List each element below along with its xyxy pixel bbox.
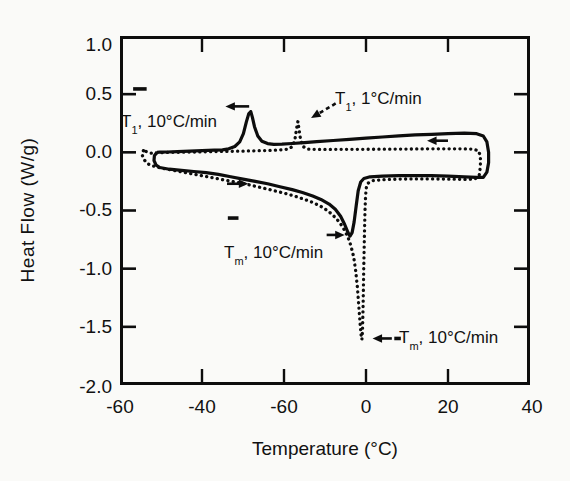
- x-tick-label: -60: [88, 396, 152, 418]
- annotation-text: , 1°C/min: [352, 89, 422, 108]
- y-tick-label: -0.5: [42, 199, 112, 221]
- y-tick-label: 0.5: [42, 83, 112, 105]
- x-tick-label: 0: [334, 396, 398, 418]
- annotation-subscript: m: [234, 255, 243, 267]
- annotation-text: , 10°C/min: [138, 112, 218, 131]
- annotation-text: T: [121, 112, 131, 131]
- dsc-thermogram-figure: Heat Flow (W/g) Temperature (°C) 1.0 0.5…: [0, 0, 570, 481]
- annotation-text: T: [399, 328, 409, 347]
- x-tick-label: -40: [170, 396, 234, 418]
- annotation-tm-dotted: Tm, 10°C/min: [399, 328, 498, 353]
- annotation-text: , 10°C/min: [419, 328, 499, 347]
- annotation-text: T: [224, 243, 234, 262]
- x-tick-label: 40: [500, 396, 564, 418]
- x-tick-label: -60: [252, 396, 316, 418]
- annotation-subscript: 1: [345, 101, 351, 113]
- tm-dotted-arrow-head: [373, 334, 383, 342]
- annotation-subscript: 1: [131, 124, 137, 136]
- t1-dotted-arrow-head: [311, 110, 321, 118]
- y-axis-title: Heat Flow (W/g): [17, 60, 39, 360]
- y-tick-label: 0.0: [42, 141, 112, 163]
- y-tick-label: -2.0: [42, 376, 112, 398]
- annotation-text: , 10°C/min: [244, 243, 324, 262]
- annotation-t1-10Cmin: T1, 10°C/min: [121, 112, 217, 137]
- x-tick-label: 20: [416, 396, 480, 418]
- y-tick-label: -1.0: [42, 258, 112, 280]
- t1-dotted-arrow: [318, 103, 336, 113]
- tm-solid-arrow-head: [335, 231, 345, 239]
- dsc-curve-dotted: [142, 122, 480, 340]
- annotation-t1-1Cmin: T1, 1°C/min: [335, 89, 422, 114]
- annotation-text: T: [335, 89, 345, 108]
- x-axis-title: Temperature (°C): [175, 438, 475, 460]
- y-tick-label: 1.0: [42, 34, 112, 56]
- cooling-arrow-right-head: [427, 137, 437, 145]
- annotation-subscript: m: [409, 340, 418, 352]
- annotation-tm-solid: Tm, 10°C/min: [224, 243, 323, 268]
- cooling-arrow-left-head: [225, 102, 235, 110]
- y-tick-label: -1.5: [42, 316, 112, 338]
